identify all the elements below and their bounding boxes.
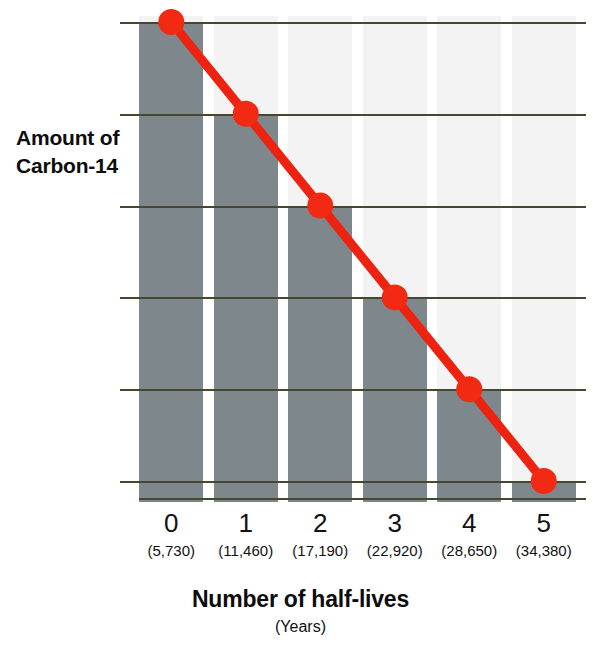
x-axis-tick-label: 5 <box>516 510 572 536</box>
x-axis-tick: 4(28,650) <box>441 510 497 558</box>
x-axis-tick: 0(5,730) <box>147 510 195 558</box>
x-axis-title: Number of half-lives <box>0 586 601 613</box>
x-axis-tick-years: (17,190) <box>292 543 348 558</box>
gridline <box>139 389 586 391</box>
axis-baseline <box>139 498 586 500</box>
y-axis-tick-mark <box>120 481 140 483</box>
x-axis-tick-years: (28,650) <box>441 543 497 558</box>
x-axis-tick-label: 2 <box>292 510 348 536</box>
x-axis-tick: 1(11,460) <box>218 510 273 558</box>
half-life-decay-chart: Amount of Carbon-14 11/21/41/81/161/32 0… <box>0 0 601 645</box>
x-axis-tick-years: (11,460) <box>218 543 273 558</box>
gridline <box>139 22 586 24</box>
x-axis-subtitle: (Years) <box>0 618 601 636</box>
y-axis-tick-mark <box>120 114 140 116</box>
x-axis-tick: 5(34,380) <box>516 510 572 558</box>
y-axis-tick-labels: 11/21/41/81/161/32 <box>0 0 133 645</box>
x-axis-tick-years: (5,730) <box>147 543 195 558</box>
y-axis-tick-mark <box>120 389 140 391</box>
gridline <box>139 297 586 299</box>
gridline <box>139 481 586 483</box>
bar <box>363 297 427 502</box>
x-axis-tick-years: (22,920) <box>367 543 423 558</box>
x-axis-tick-label: 1 <box>218 510 273 536</box>
y-axis-tick-mark <box>120 22 140 24</box>
x-axis-tick-label: 0 <box>147 510 195 536</box>
x-axis-tick-label: 4 <box>441 510 497 536</box>
plot-area <box>139 16 586 502</box>
background-band <box>512 16 576 502</box>
bar <box>288 206 352 502</box>
x-axis-tick-label: 3 <box>367 510 423 536</box>
gridline <box>139 114 586 116</box>
x-axis-tick: 2(17,190) <box>292 510 348 558</box>
x-axis-tick-years: (34,380) <box>516 543 572 558</box>
bar <box>214 114 278 502</box>
gridline <box>139 206 586 208</box>
bar <box>139 22 203 502</box>
y-axis-tick-mark <box>120 206 140 208</box>
y-axis-tick-mark <box>120 297 140 299</box>
x-axis-tick: 3(22,920) <box>367 510 423 558</box>
bar <box>437 389 501 502</box>
